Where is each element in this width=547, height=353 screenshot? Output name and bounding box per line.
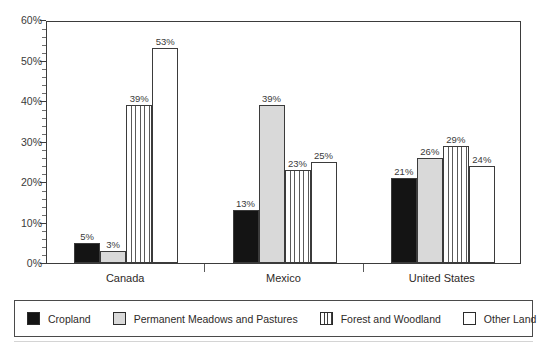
bar-value-label: 21%	[394, 167, 413, 177]
legend-swatch-icon	[113, 312, 126, 325]
bar: 21%	[391, 178, 417, 263]
bar-value-label: 5%	[80, 232, 94, 242]
legend-label: Permanent Meadows and Pastures	[134, 313, 298, 325]
x-axis-group-label: Canada	[106, 272, 145, 284]
x-axis-group-label: Mexico	[266, 272, 301, 284]
legend-item: Other Land	[463, 312, 537, 325]
x-axis-group-label: United States	[409, 272, 475, 284]
bar-value-label: 3%	[106, 240, 120, 250]
bar-value-label: 53%	[156, 37, 175, 47]
bar: 5%	[74, 243, 100, 263]
y-axis-tick-label: 50%	[2, 56, 42, 66]
bar: 3%	[100, 251, 126, 263]
legend-label: Forest and Woodland	[341, 313, 441, 325]
bar-value-label: 39%	[130, 94, 149, 104]
y-axis-tick-label: 20%	[2, 177, 42, 187]
legend-item: Forest and Woodland	[320, 312, 441, 325]
legend-swatch-icon	[27, 312, 40, 325]
chart-legend: CroplandPermanent Meadows and PasturesFo…	[14, 300, 533, 337]
y-axis-tick-label: 60%	[2, 15, 42, 25]
bar: 13%	[233, 210, 259, 263]
footer-divider	[14, 341, 533, 342]
y-axis-tick-label: 0%	[2, 258, 42, 268]
bar: 24%	[469, 166, 495, 263]
bar: 26%	[417, 158, 443, 263]
bar: 25%	[311, 162, 337, 263]
legend-label: Other Land	[484, 313, 537, 325]
legend-item: Cropland	[27, 312, 91, 325]
legend-item: Permanent Meadows and Pastures	[113, 312, 298, 325]
legend-swatch-icon	[463, 312, 476, 325]
bar-value-label: 25%	[314, 151, 333, 161]
bar-value-label: 23%	[288, 159, 307, 169]
plot-area: 5%3%39%53%13%39%23%25%21%26%29%24%	[46, 21, 521, 264]
bar: 29%	[443, 146, 469, 263]
bar: 39%	[126, 105, 152, 263]
y-axis-tick-label: 40%	[2, 96, 42, 106]
x-axis-group-tick	[204, 264, 205, 272]
bar-value-label: 39%	[262, 94, 281, 104]
bar-value-label: 29%	[446, 135, 465, 145]
bar-value-label: 24%	[472, 155, 491, 165]
legend-label: Cropland	[48, 313, 91, 325]
legend-swatch-icon	[320, 312, 333, 325]
bar-value-label: 26%	[420, 147, 439, 157]
bar: 39%	[259, 105, 285, 263]
x-axis-group-tick	[363, 264, 364, 272]
y-axis-tick-label: 10%	[2, 218, 42, 228]
y-axis-tick-label: 30%	[2, 137, 42, 147]
bar-value-label: 13%	[236, 199, 255, 209]
bar-chart: 0%10%20%30%40%50%60% 5%3%39%53%13%39%23%…	[0, 0, 547, 295]
bar: 23%	[285, 170, 311, 263]
bar: 53%	[152, 48, 178, 263]
